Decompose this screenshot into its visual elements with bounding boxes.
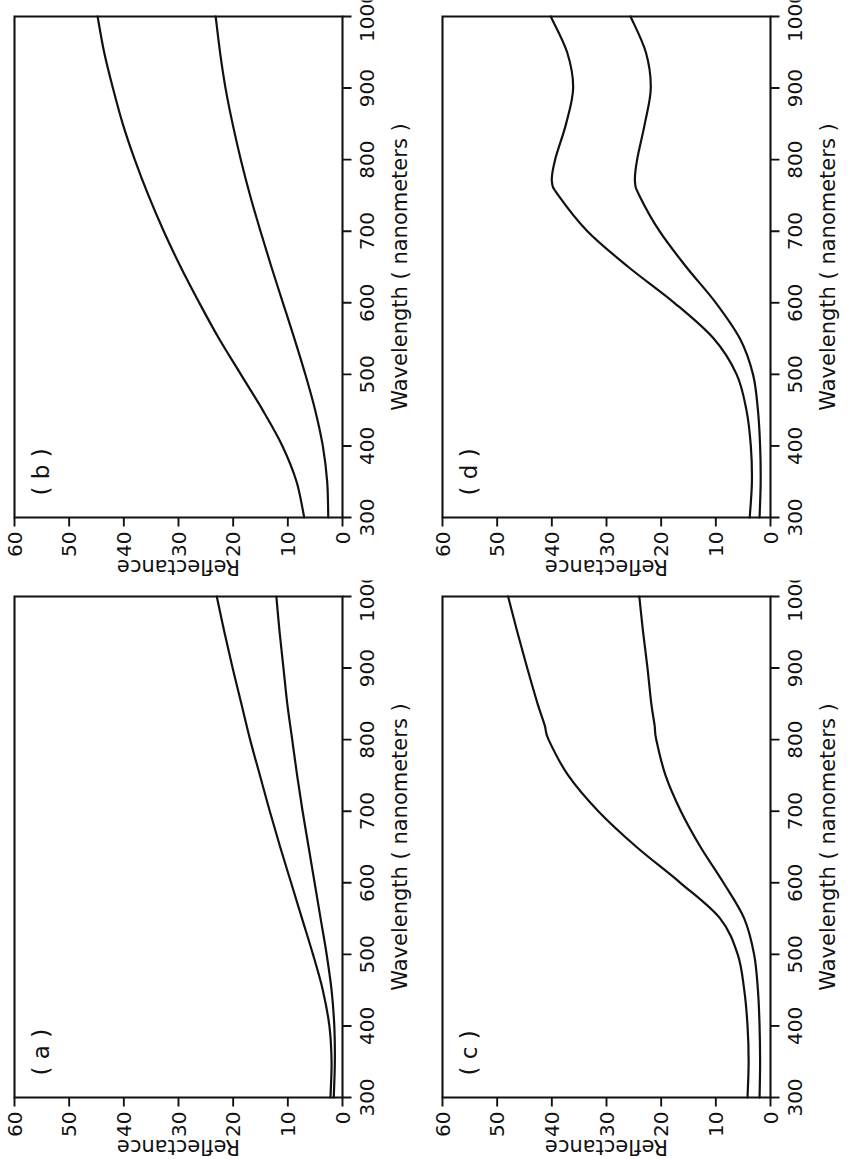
x-tick-label: 1000 bbox=[782, 0, 806, 41]
x-tick-label: 800 bbox=[354, 140, 378, 178]
data-curve-lower bbox=[630, 16, 760, 517]
panel-c-svg: 30040050060070080090010000102030405060Wa… bbox=[428, 580, 856, 1159]
y-tick-label: 30 bbox=[594, 531, 618, 556]
x-tick-label: 800 bbox=[782, 140, 806, 178]
y-tick-label: 60 bbox=[2, 531, 26, 556]
panel-d: 30040050060070080090010000102030405060Wa… bbox=[428, 0, 856, 579]
panel-label: ( d ) bbox=[455, 448, 481, 495]
y-tick-label: 50 bbox=[57, 531, 81, 556]
x-tick-label: 400 bbox=[782, 426, 806, 464]
panel-a-rotated-chart: 30040050060070080090010000102030405060Wa… bbox=[0, 580, 428, 1159]
x-tick-label: 600 bbox=[782, 283, 806, 321]
y-tick-label: 0 bbox=[330, 531, 354, 544]
x-tick-label: 1000 bbox=[354, 580, 378, 621]
y-tick-label: 60 bbox=[430, 531, 454, 556]
y-tick-label: 60 bbox=[2, 1111, 26, 1136]
y-tick-label: 10 bbox=[703, 1111, 727, 1136]
x-tick-label: 500 bbox=[782, 935, 806, 973]
data-curve-lower bbox=[639, 596, 760, 1097]
y-tick-label: 40 bbox=[111, 531, 135, 556]
x-tick-label: 300 bbox=[782, 1078, 806, 1116]
x-tick-label: 700 bbox=[782, 792, 806, 830]
x-tick-label: 400 bbox=[354, 1006, 378, 1044]
x-tick-label: 700 bbox=[354, 212, 378, 250]
y-tick-label: 10 bbox=[275, 1111, 299, 1136]
panel-d-svg: 30040050060070080090010000102030405060Wa… bbox=[428, 0, 856, 579]
panel-label: ( c ) bbox=[455, 1030, 481, 1075]
x-tick-label: 600 bbox=[782, 863, 806, 901]
data-curve-upper bbox=[508, 596, 749, 1097]
panel-a: 30040050060070080090010000102030405060Wa… bbox=[0, 580, 428, 1159]
y-tick-label: 40 bbox=[539, 531, 563, 556]
x-tick-label: 700 bbox=[354, 792, 378, 830]
y-tick-label: 50 bbox=[57, 1111, 81, 1136]
panel-c: 30040050060070080090010000102030405060Wa… bbox=[428, 580, 856, 1159]
panel-label: ( b ) bbox=[27, 448, 53, 495]
plot-frame bbox=[14, 16, 342, 517]
x-tick-label: 300 bbox=[354, 498, 378, 536]
x-tick-label: 500 bbox=[354, 355, 378, 393]
y-tick-label: 20 bbox=[649, 1111, 673, 1136]
x-tick-label: 1000 bbox=[782, 580, 806, 621]
y-tick-label: 20 bbox=[649, 531, 673, 556]
x-tick-label: 1000 bbox=[354, 0, 378, 41]
y-tick-label: 20 bbox=[221, 531, 245, 556]
y-tick-label: 50 bbox=[485, 531, 509, 556]
y-axis-title: Reflectance bbox=[116, 554, 239, 578]
x-tick-label: 500 bbox=[354, 935, 378, 973]
x-axis-title: Wavelength ( nanometers ) bbox=[815, 123, 839, 410]
y-tick-label: 40 bbox=[111, 1111, 135, 1136]
x-tick-label: 800 bbox=[782, 720, 806, 758]
y-tick-label: 30 bbox=[166, 531, 190, 556]
y-axis-title: Reflectance bbox=[544, 554, 667, 578]
plot-frame bbox=[14, 596, 342, 1097]
x-axis-title: Wavelength ( nanometers ) bbox=[815, 703, 839, 990]
y-axis-title: Reflectance bbox=[116, 1134, 239, 1158]
x-tick-label: 800 bbox=[354, 720, 378, 758]
x-tick-label: 600 bbox=[354, 283, 378, 321]
x-tick-label: 500 bbox=[782, 355, 806, 393]
y-tick-label: 20 bbox=[221, 1111, 245, 1136]
y-tick-label: 0 bbox=[330, 1111, 354, 1124]
y-tick-label: 30 bbox=[594, 1111, 618, 1136]
y-tick-label: 10 bbox=[703, 531, 727, 556]
y-tick-label: 60 bbox=[430, 1111, 454, 1136]
panel-d-rotated-chart: 30040050060070080090010000102030405060Wa… bbox=[428, 0, 856, 579]
y-tick-label: 0 bbox=[758, 531, 782, 544]
x-tick-label: 600 bbox=[354, 863, 378, 901]
x-tick-label: 900 bbox=[354, 68, 378, 106]
plot-frame bbox=[442, 596, 770, 1097]
panel-b-rotated-chart: 30040050060070080090010000102030405060Wa… bbox=[0, 0, 428, 579]
x-tick-label: 700 bbox=[782, 212, 806, 250]
y-tick-label: 30 bbox=[166, 1111, 190, 1136]
reflectance-spectra-figure: 30040050060070080090010000102030405060Wa… bbox=[0, 0, 856, 1159]
panel-b: 30040050060070080090010000102030405060Wa… bbox=[0, 0, 428, 579]
x-tick-label: 900 bbox=[354, 648, 378, 686]
x-tick-label: 900 bbox=[782, 68, 806, 106]
x-tick-label: 300 bbox=[782, 498, 806, 536]
panel-b-svg: 30040050060070080090010000102030405060Wa… bbox=[0, 0, 428, 579]
data-curve-lower bbox=[215, 16, 328, 517]
panel-c-rotated-chart: 30040050060070080090010000102030405060Wa… bbox=[428, 580, 856, 1159]
panel-a-svg: 30040050060070080090010000102030405060Wa… bbox=[0, 580, 428, 1159]
y-tick-label: 0 bbox=[758, 1111, 782, 1124]
data-curve-lower bbox=[276, 596, 335, 1097]
data-curve-upper bbox=[97, 16, 304, 517]
y-tick-label: 50 bbox=[485, 1111, 509, 1136]
x-axis-title: Wavelength ( nanometers ) bbox=[387, 703, 411, 990]
x-tick-label: 400 bbox=[354, 426, 378, 464]
y-tick-label: 10 bbox=[275, 531, 299, 556]
x-axis-title: Wavelength ( nanometers ) bbox=[387, 123, 411, 410]
data-curve-upper bbox=[216, 596, 331, 1097]
plot-frame bbox=[442, 16, 770, 517]
y-axis-title: Reflectance bbox=[544, 1134, 667, 1158]
panel-label: ( a ) bbox=[27, 1028, 53, 1075]
y-tick-label: 40 bbox=[539, 1111, 563, 1136]
x-tick-label: 900 bbox=[782, 648, 806, 686]
x-tick-label: 400 bbox=[782, 1006, 806, 1044]
x-tick-label: 300 bbox=[354, 1078, 378, 1116]
